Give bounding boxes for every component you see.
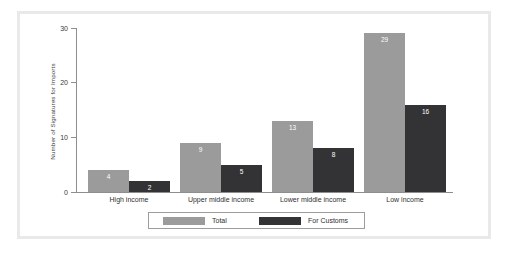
x-tick-label-lower-middle-income: Lower middle income xyxy=(263,195,363,204)
legend-entry-for-customs[interactable]: For Customs xyxy=(259,213,348,228)
y-tick-label-10: 10 xyxy=(50,134,68,141)
bar-value-total-lower-middle-income: 13 xyxy=(272,124,313,131)
bar-total-lower-middle-income[interactable]: 13 xyxy=(272,121,313,192)
y-tick-label-30: 30 xyxy=(50,25,68,32)
chart-legend: Total For Customs xyxy=(148,212,365,229)
bar-total-low-income[interactable]: 29 xyxy=(364,33,405,192)
bar-value-customs-upper-middle-income: 5 xyxy=(221,168,262,175)
bar-customs-low-income[interactable]: 16 xyxy=(405,105,446,192)
bar-value-total-upper-middle-income: 9 xyxy=(180,146,221,153)
y-tick-mark-10 xyxy=(71,137,76,138)
x-tick-label-high-income: High income xyxy=(89,195,169,204)
bar-total-upper-middle-income[interactable]: 9 xyxy=(180,143,221,192)
bar-value-customs-low-income: 16 xyxy=(405,108,446,115)
bar-total-high-income[interactable]: 4 xyxy=(88,170,129,192)
bar-customs-high-income[interactable]: 2 xyxy=(129,181,170,192)
y-axis-title: Number of Signatures for Imports xyxy=(49,27,56,197)
legend-swatch-for-customs-icon xyxy=(259,217,301,225)
bar-customs-upper-middle-income[interactable]: 5 xyxy=(221,165,262,192)
x-tick-label-upper-middle-income: Upper middle income xyxy=(171,195,271,204)
x-tick-label-low-income: Low income xyxy=(365,195,445,204)
plot-area: Number of Signatures for Imports 0 10 20… xyxy=(0,0,508,253)
y-tick-label-0: 0 xyxy=(50,189,68,196)
y-tick-mark-30 xyxy=(71,28,76,29)
legend-label-for-customs: For Customs xyxy=(308,217,348,224)
legend-entry-total[interactable]: Total xyxy=(163,213,227,228)
chart-figure: Number of Signatures for Imports 0 10 20… xyxy=(0,0,508,253)
bar-value-customs-high-income: 2 xyxy=(129,184,170,191)
legend-swatch-total-icon xyxy=(163,217,205,225)
y-tick-mark-0 xyxy=(71,192,76,193)
bar-value-total-high-income: 4 xyxy=(88,173,129,180)
bar-value-customs-lower-middle-income: 8 xyxy=(313,151,354,158)
bar-customs-lower-middle-income[interactable]: 8 xyxy=(313,148,354,192)
x-axis-line xyxy=(76,192,453,193)
y-tick-mark-20 xyxy=(71,82,76,83)
legend-label-total: Total xyxy=(212,217,227,224)
y-axis-line xyxy=(76,28,77,193)
y-tick-label-20: 20 xyxy=(50,79,68,86)
bar-value-total-low-income: 29 xyxy=(364,36,405,43)
